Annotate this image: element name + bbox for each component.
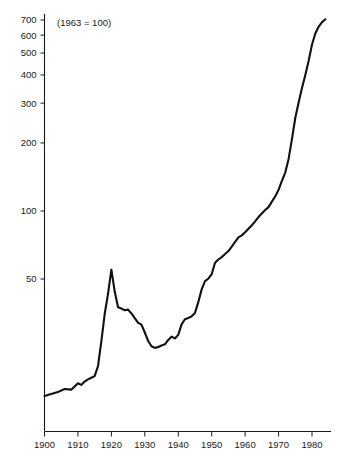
base-year-annotation: (1963 = 100) <box>57 17 111 28</box>
y-tick-label: 200 <box>21 137 37 148</box>
x-tick-label: 1940 <box>168 439 189 450</box>
y-tick-label: 100 <box>21 205 37 216</box>
y-tick-label: 700 <box>21 14 37 25</box>
x-tick-label: 1950 <box>201 439 222 450</box>
data-series-line <box>45 19 326 396</box>
x-tick-label: 1970 <box>268 439 289 450</box>
x-tick-label: 1910 <box>67 439 88 450</box>
x-axis-ticks: 190019101920193019401950196019701980 <box>34 432 323 450</box>
y-tick-label: 500 <box>21 47 37 58</box>
y-tick-label: 300 <box>21 98 37 109</box>
y-axis-ticks: 50100200300400500600700 <box>21 14 45 284</box>
x-tick-label: 1920 <box>101 439 122 450</box>
x-tick-label: 1930 <box>134 439 155 450</box>
y-tick-label: 50 <box>26 273 37 284</box>
x-tick-label: 1900 <box>34 439 55 450</box>
x-tick-label: 1960 <box>235 439 256 450</box>
y-tick-label: 600 <box>21 30 37 41</box>
line-chart: 50100200300400500600700 1900191019201930… <box>0 0 346 460</box>
x-tick-label: 1980 <box>301 439 322 450</box>
y-tick-label: 400 <box>21 69 37 80</box>
chart-container: 50100200300400500600700 1900191019201930… <box>0 0 346 460</box>
